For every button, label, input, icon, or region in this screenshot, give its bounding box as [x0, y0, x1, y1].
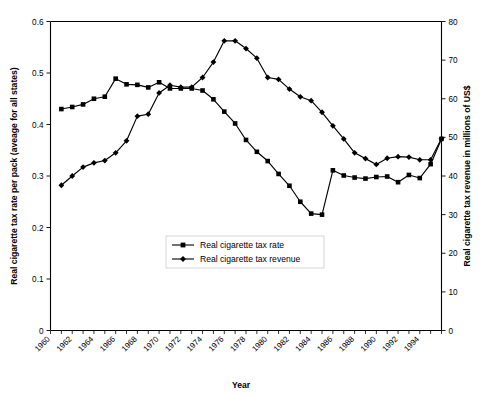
- data-point-marker: [276, 172, 281, 177]
- data-point-marker: [385, 174, 390, 179]
- chart-figure: 00.10.20.30.40.50.6 01020304050607080 19…: [0, 0, 482, 396]
- y-axis-right-tick-label: 20: [449, 249, 459, 258]
- data-point-marker: [222, 109, 227, 114]
- y-axis-right-tick-label: 60: [449, 95, 459, 104]
- y-axis-left-tick-label: 0.4: [32, 121, 44, 130]
- data-point-marker: [331, 168, 336, 173]
- legend-marker-square: [181, 243, 186, 248]
- data-point-marker: [59, 107, 64, 112]
- dual-axis-line-chart: 00.10.20.30.40.50.6 01020304050607080 19…: [0, 0, 482, 396]
- x-axis-title: Year: [232, 380, 251, 390]
- data-point-marker: [287, 183, 292, 188]
- data-point-marker: [396, 180, 401, 185]
- data-point-marker: [320, 212, 325, 217]
- y-axis-left-tick-label: 0.6: [32, 18, 44, 27]
- chart-legend: Real cigarette tax rateReal cigarette ta…: [166, 236, 324, 268]
- y-axis-left-tick-label: 0.3: [32, 172, 44, 181]
- data-point-marker: [233, 121, 238, 126]
- y-axis-right-tick-label: 70: [449, 56, 459, 65]
- legend-label: Real cigarette tax revenue: [200, 254, 301, 264]
- y-axis-left-tick-label: 0.2: [32, 224, 44, 233]
- data-point-marker: [157, 80, 162, 85]
- data-point-marker: [146, 85, 151, 90]
- data-point-marker: [200, 88, 205, 93]
- y-axis-left-tick-label: 0.5: [32, 69, 44, 78]
- legend-label: Real cigarette tax rate: [200, 240, 284, 250]
- data-point-marker: [309, 211, 314, 216]
- y-axis-right-tick-label: 80: [449, 18, 459, 27]
- data-point-marker: [81, 102, 86, 107]
- y-axis-right-tick-label: 40: [449, 172, 459, 181]
- y-axis-right-tick-label: 30: [449, 211, 459, 220]
- y-axis-left-tick-label: 0.1: [32, 275, 44, 284]
- data-point-marker: [255, 149, 260, 154]
- data-point-marker: [211, 97, 216, 102]
- data-point-marker: [70, 105, 75, 110]
- y-axis-right-tick-label: 50: [449, 133, 459, 142]
- data-point-marker: [113, 76, 118, 81]
- data-point-marker: [352, 175, 357, 180]
- data-point-marker: [407, 173, 412, 178]
- data-point-marker: [265, 159, 270, 164]
- data-point-marker: [244, 138, 249, 143]
- data-point-marker: [92, 96, 97, 101]
- data-point-marker: [417, 176, 422, 181]
- data-point-marker: [363, 176, 368, 181]
- y-axis-left-tick-label: 0: [39, 327, 44, 336]
- y-axis-left-title: Real cigarette tax rate per pack (aveage…: [9, 67, 19, 284]
- data-point-marker: [341, 173, 346, 178]
- data-point-marker: [374, 175, 379, 180]
- data-point-marker: [103, 94, 108, 99]
- y-axis-right-title: Real cigarette tax revenue in millions o…: [462, 85, 472, 266]
- y-axis-right-tick-label: 10: [449, 288, 459, 297]
- y-axis-right-tick-label: 0: [449, 327, 454, 336]
- data-point-marker: [124, 82, 129, 87]
- data-point-marker: [135, 83, 140, 88]
- data-point-marker: [298, 199, 303, 204]
